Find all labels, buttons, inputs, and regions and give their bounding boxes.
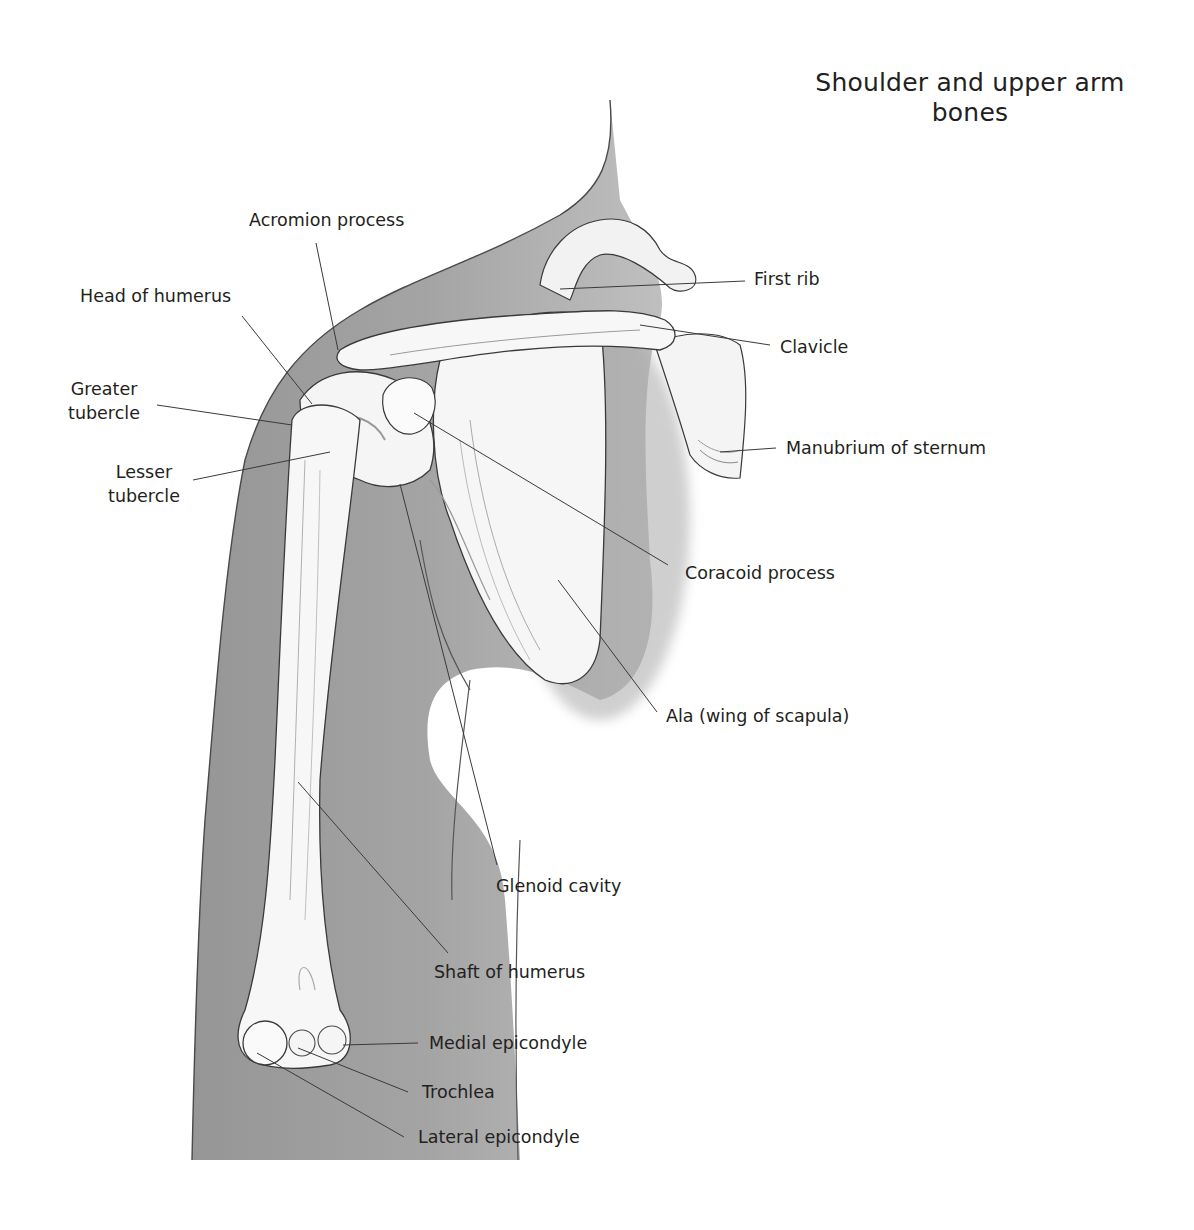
figure-title-line-2: bones [800,98,1140,128]
shoulder-illustration [0,0,1194,1230]
label-first-rib: First rib [754,267,820,291]
label-greater-tubercle: Greater tubercle [54,377,154,425]
label-coracoid-process: Coracoid process [685,561,835,585]
label-lesser-tubercle: Lesser tubercle [94,460,194,508]
label-manubrium-of-sternum: Manubrium of sternum [786,436,986,460]
label-greater-tubercle-line-1: Greater [54,377,154,401]
figure-title-line-1: Shoulder and upper arm [800,68,1140,98]
label-lesser-tubercle-line-2: tubercle [94,484,194,508]
label-acromion-process: Acromion process [249,208,404,232]
label-shaft-of-humerus: Shaft of humerus [434,960,585,984]
label-head-of-humerus: Head of humerus [80,284,231,308]
label-lesser-tubercle-line-1: Lesser [94,460,194,484]
label-clavicle: Clavicle [780,335,848,359]
anatomy-diagram: Shoulder and upper arm bones Acromion pr… [0,0,1194,1230]
label-ala-wing-of-scapula: Ala (wing of scapula) [666,704,849,728]
label-lateral-epicondyle: Lateral epicondyle [418,1125,580,1149]
figure-title: Shoulder and upper arm bones [800,68,1140,128]
label-trochlea: Trochlea [422,1080,495,1104]
label-greater-tubercle-line-2: tubercle [54,401,154,425]
label-glenoid-cavity: Glenoid cavity [496,874,621,898]
label-medial-epicondyle: Medial epicondyle [429,1031,587,1055]
